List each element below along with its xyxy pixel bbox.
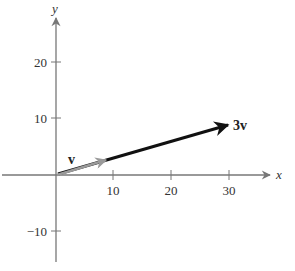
y-tick-20: 20 xyxy=(34,55,61,70)
svg-text:−10: −10 xyxy=(27,224,47,239)
vector-diagram: x y 10 20 30 20 10 −10 v 3v xyxy=(0,0,295,271)
x-tick-10: 10 xyxy=(107,170,120,198)
svg-text:20: 20 xyxy=(165,183,178,198)
svg-text:10: 10 xyxy=(34,111,47,126)
svg-text:10: 10 xyxy=(107,183,120,198)
y-tick-10: 10 xyxy=(34,111,61,126)
vector-v-label: v xyxy=(68,152,75,167)
x-axis-label: x xyxy=(275,167,282,182)
svg-text:30: 30 xyxy=(223,183,236,198)
svg-text:20: 20 xyxy=(34,55,47,70)
x-tick-30: 30 xyxy=(223,170,236,198)
vector-v xyxy=(57,160,106,175)
vector-3v-label: 3v xyxy=(233,118,247,133)
y-axis-label: y xyxy=(50,1,58,16)
x-tick-20: 20 xyxy=(165,170,178,198)
